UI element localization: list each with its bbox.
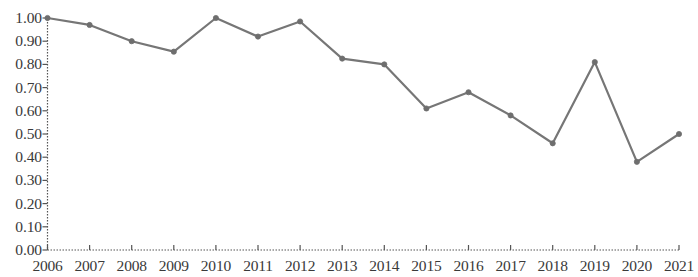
data-point-marker: [382, 62, 387, 67]
data-point-marker: [298, 19, 303, 24]
y-axis-tick-label: 0.90: [0, 33, 42, 49]
y-axis-tick-label: 0.70: [0, 80, 42, 96]
x-axis-tick-label: 2012: [277, 258, 323, 274]
y-axis-tick-label: 0.50: [0, 126, 42, 142]
x-axis-tick-label: 2015: [403, 258, 449, 274]
chart-axes: [43, 16, 680, 250]
x-axis-tick-label: 2016: [446, 258, 492, 274]
chart-series: [45, 15, 682, 164]
x-axis-tick-label: 2009: [151, 258, 197, 274]
y-axis-tick-label: 0.20: [0, 196, 42, 212]
data-point-marker: [550, 141, 555, 146]
data-point-marker: [466, 90, 471, 95]
data-point-marker: [171, 49, 176, 54]
x-axis-tick-label: 2013: [319, 258, 365, 274]
y-axis-tick-label: 0.30: [0, 172, 42, 188]
data-point-marker: [340, 56, 345, 61]
x-axis-tick-label: 2006: [25, 258, 71, 274]
x-axis-tick-label: 2007: [67, 258, 113, 274]
y-axis-tick-label: 0.80: [0, 56, 42, 72]
x-axis-tick-label: 2021: [656, 258, 698, 274]
data-point-marker: [634, 159, 639, 164]
data-point-marker: [508, 113, 513, 118]
x-axis-tick-label: 2018: [530, 258, 576, 274]
data-point-marker: [129, 39, 134, 44]
data-point-marker: [87, 22, 92, 27]
data-point-marker: [424, 106, 429, 111]
y-axis-tick-label: 0.10: [0, 219, 42, 235]
data-point-marker: [676, 131, 681, 136]
data-line: [48, 18, 680, 162]
data-point-marker: [213, 15, 218, 20]
y-axis-tick-label: 1.00: [0, 10, 42, 26]
x-axis-tick-label: 2008: [109, 258, 155, 274]
y-axis-tick-label: 0.40: [0, 149, 42, 165]
data-point-marker: [255, 34, 260, 39]
x-axis-tick-label: 2014: [361, 258, 407, 274]
y-axis-tick-label: 0.00: [0, 242, 42, 258]
data-point-marker: [592, 59, 597, 64]
x-axis-tick-label: 2011: [235, 258, 281, 274]
x-axis-tick-label: 2020: [614, 258, 660, 274]
x-axis-tick-label: 2010: [193, 258, 239, 274]
data-point-marker: [45, 15, 50, 20]
x-axis-tick-label: 2019: [572, 258, 618, 274]
y-axis-tick-label: 0.60: [0, 103, 42, 119]
x-axis-tick-label: 2017: [488, 258, 534, 274]
